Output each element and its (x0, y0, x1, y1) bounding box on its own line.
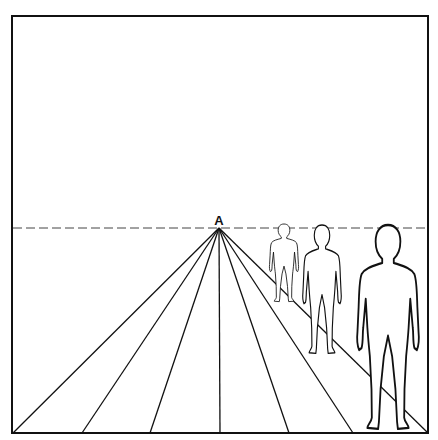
perspective-diagram: A (0, 0, 438, 440)
orthogonal-lines (13, 228, 428, 433)
vanishing-point-label: A (214, 213, 224, 228)
figure-middle (303, 225, 342, 353)
figure-far (269, 224, 298, 302)
figure-near (357, 225, 419, 429)
